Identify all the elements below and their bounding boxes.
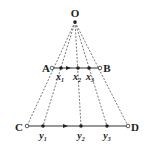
- point-y1: [41, 124, 45, 128]
- label-x1: x1: [55, 71, 64, 83]
- label-c: C: [15, 121, 23, 133]
- diagram-canvas: O A B C D x1 x2 x3 y1 y2 y3: [0, 0, 150, 149]
- point-x2: [76, 66, 80, 70]
- point-c: [25, 124, 29, 128]
- point-a: [50, 66, 54, 70]
- label-x2: x2: [72, 71, 81, 83]
- projection-line-a-c: [27, 22, 75, 126]
- label-y2: y2: [76, 130, 84, 142]
- point-o: [73, 20, 77, 24]
- label-x3: x3: [85, 71, 94, 83]
- label-y1: y1: [38, 130, 46, 142]
- label-b: B: [103, 62, 111, 74]
- label-d: D: [131, 121, 139, 133]
- point-b: [98, 66, 102, 70]
- perspective-projection-diagram: O A B C D x1 x2 x3 y1 y2 y3: [0, 0, 150, 149]
- label-o: O: [71, 7, 80, 19]
- projection-line-b-d: [75, 22, 128, 126]
- label-a: A: [42, 62, 50, 74]
- point-x3: [87, 66, 91, 70]
- arrow-right-icon: [66, 66, 71, 70]
- arrow-right-icon: [63, 124, 68, 128]
- point-d: [126, 124, 130, 128]
- point-x1: [59, 66, 63, 70]
- label-y3: y3: [102, 130, 110, 142]
- point-y2: [79, 124, 83, 128]
- point-y3: [105, 124, 109, 128]
